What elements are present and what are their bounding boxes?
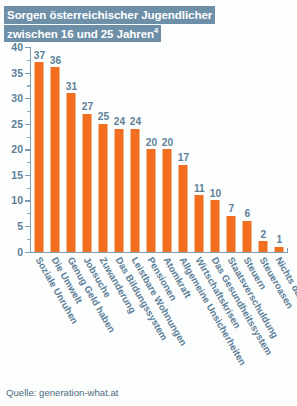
y-tick-minor-mark xyxy=(27,213,30,214)
y-tick-mark xyxy=(25,98,30,99)
y-tick-mark xyxy=(25,226,30,227)
x-axis-label: Die Umwelt xyxy=(49,255,59,261)
bar xyxy=(115,129,124,252)
y-tick-label: 25 xyxy=(11,118,23,130)
x-axis-label: Allgemeine Unsicherheiten xyxy=(177,255,187,261)
bar-value-label: 24 xyxy=(130,116,141,127)
chart-figure: Sorgen österreichischer Jugendlicher zwi… xyxy=(0,0,297,406)
y-tick-label: 30 xyxy=(11,92,23,104)
bar xyxy=(131,129,140,252)
y-tick-minor-mark xyxy=(27,137,30,138)
y-tick-label: 20 xyxy=(11,143,23,155)
bar-value-label: 2 xyxy=(261,229,267,240)
y-tick-label: 35 xyxy=(11,67,23,79)
x-axis-label: Soziale Unruhen xyxy=(33,255,43,261)
y-tick-minor-mark xyxy=(27,188,30,189)
bar-slot: 20 xyxy=(143,47,159,252)
y-tick-mark xyxy=(25,124,30,125)
x-axis-category-labels: Soziale UnruhenDie UmweltGenug Geld habe… xyxy=(30,255,288,375)
x-axis-label: Wirtschaftskrisen xyxy=(193,255,203,261)
bar-value-label: 25 xyxy=(98,111,109,122)
x-axis-label: Das Gesundheitssystem xyxy=(209,255,219,261)
x-axis-label: Genug Geld haben xyxy=(65,255,75,261)
x-axis-label: Das Bildungssystem xyxy=(113,255,123,261)
bar-value-label: 36 xyxy=(50,55,61,66)
bar-slot: 20 xyxy=(159,47,175,252)
bar-slot: 36 xyxy=(47,47,63,252)
bar-slot: 2 xyxy=(255,47,271,252)
bar-series: 3736312725242420201711107621 xyxy=(31,47,288,252)
y-tick-label: 0 xyxy=(17,246,23,258)
x-axis-label: Zuwanderung xyxy=(97,255,107,261)
chart-title: Sorgen österreichischer Jugendlicher zwi… xyxy=(4,5,286,42)
bar-slot: 24 xyxy=(127,47,143,252)
bar-value-label: 20 xyxy=(146,137,157,148)
bar-value-label: 27 xyxy=(82,101,93,112)
x-axis-label: Steueroasen xyxy=(257,255,267,261)
x-axis-label: Jobsuche xyxy=(81,255,91,261)
chart-title-footnote-marker: 4 xyxy=(154,26,158,35)
bar-slot: 27 xyxy=(79,47,95,252)
source-note: Quelle: generation-what.at xyxy=(6,387,119,398)
y-tick-label: 40 xyxy=(11,41,23,53)
y-tick-minor-mark xyxy=(27,60,30,61)
bar-slot: 10 xyxy=(207,47,223,252)
bar-value-label: 20 xyxy=(162,137,173,148)
y-tick-mark xyxy=(25,73,30,74)
y-tick-label: 15 xyxy=(11,169,23,181)
y-tick-minor-mark xyxy=(27,239,30,240)
bar-slot: 7 xyxy=(223,47,239,252)
bar-value-label: 7 xyxy=(229,203,235,214)
x-axis-label: Pensionen xyxy=(145,255,155,261)
bar xyxy=(211,200,220,251)
bar-value-label: 10 xyxy=(210,188,221,199)
bar-slot: 25 xyxy=(95,47,111,252)
bar-slot: 11 xyxy=(191,47,207,252)
bar xyxy=(259,241,268,251)
y-tick-label: 10 xyxy=(11,194,23,206)
chart-title-line-2: zwischen 16 und 25 Jahren4 xyxy=(4,25,161,43)
chart-title-line-2-text: zwischen 16 und 25 Jahren xyxy=(7,27,154,40)
x-axis-label: Leistbare Wohnungen xyxy=(129,255,139,261)
bar xyxy=(67,93,76,252)
y-tick-mark xyxy=(25,252,30,253)
bar xyxy=(35,62,44,251)
chart-title-line-1: Sorgen österreichischer Jugendlicher xyxy=(4,6,215,24)
y-tick-mark xyxy=(25,47,30,48)
bar-value-label: 37 xyxy=(34,50,45,61)
bar-slot: 24 xyxy=(111,47,127,252)
bar-slot: 31 xyxy=(63,47,79,252)
bar xyxy=(99,124,108,252)
bar xyxy=(243,221,252,252)
bar xyxy=(51,67,60,251)
bar xyxy=(195,195,204,251)
y-tick-minor-mark xyxy=(27,162,30,163)
y-tick-mark xyxy=(25,149,30,150)
bar-value-label: 24 xyxy=(114,116,125,127)
bar-value-label: 17 xyxy=(178,152,189,163)
bar-value-label: 6 xyxy=(245,208,251,219)
bar-value-label: 31 xyxy=(66,81,77,92)
y-tick-label: 5 xyxy=(17,220,23,232)
bar xyxy=(163,149,172,251)
bar-slot: 1 xyxy=(271,47,287,252)
bar-value-label: 1 xyxy=(277,234,283,245)
plot-area: 0510152025303540 37363127252424202017111… xyxy=(30,47,288,253)
bar-slot: 37 xyxy=(31,47,47,252)
y-tick-mark xyxy=(25,200,30,201)
x-axis-label: Staatsverschuldung xyxy=(225,255,235,261)
y-tick-minor-mark xyxy=(27,85,30,86)
bar-value-label: 11 xyxy=(194,183,205,194)
bar xyxy=(179,165,188,252)
x-axis-line xyxy=(30,252,288,253)
x-axis-label: Steuern xyxy=(241,255,251,261)
bar xyxy=(147,149,156,251)
x-axis-label: Nichts davon xyxy=(273,255,283,261)
bar xyxy=(227,216,236,252)
bar xyxy=(275,247,284,252)
y-tick-minor-mark xyxy=(27,111,30,112)
bar-slot: 17 xyxy=(175,47,191,252)
bar xyxy=(83,114,92,252)
bar-slot: 6 xyxy=(239,47,255,252)
y-tick-mark xyxy=(25,175,30,176)
